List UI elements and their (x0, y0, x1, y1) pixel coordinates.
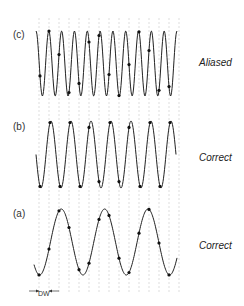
sample-point (127, 271, 130, 274)
sample-point (117, 180, 120, 183)
sample-point (108, 121, 111, 124)
sample-point (87, 126, 90, 129)
sample-point (47, 247, 50, 250)
sample-point (37, 273, 40, 276)
sample-point (168, 121, 171, 124)
sample-point (67, 226, 70, 229)
status-label-correct-a: Correct (199, 240, 232, 251)
sample-point (138, 185, 141, 188)
sample-point (67, 91, 70, 94)
sample-point (38, 185, 41, 188)
sample-point (148, 121, 151, 124)
sample-point (167, 273, 170, 276)
sample-point (57, 53, 60, 56)
panel-label-a: (a) (13, 208, 25, 219)
sample-point (87, 40, 90, 43)
sample-point (147, 208, 150, 211)
sample-point (77, 268, 80, 271)
waveform-b (36, 121, 176, 188)
sample-point (137, 30, 140, 33)
sample-point (78, 185, 81, 188)
sample-point (117, 257, 120, 260)
sample-point (167, 85, 170, 88)
sample-point (137, 232, 140, 235)
sample-point (157, 241, 160, 244)
status-label-aliased: Aliased (199, 57, 232, 68)
sample-point (127, 63, 130, 66)
sample-point (87, 262, 90, 265)
sample-point (77, 82, 80, 85)
sample-point (57, 209, 60, 212)
grid-lines (39, 18, 179, 292)
dwell-width-label: DW (38, 290, 50, 297)
sample-point (107, 214, 110, 217)
sample-point (97, 34, 100, 37)
panel-label-b: (b) (13, 121, 25, 132)
waveform-a (34, 209, 177, 275)
sample-point (127, 126, 130, 129)
sample-point (97, 180, 100, 183)
sample-point (47, 30, 50, 33)
sample-point (48, 121, 51, 124)
sample-point (157, 89, 160, 92)
sample-point (58, 185, 61, 188)
sample-point (107, 73, 110, 76)
sample-point (158, 185, 161, 188)
sample-point (117, 94, 120, 97)
sample-point (68, 121, 71, 124)
sample-point (97, 218, 100, 221)
sample-point (38, 74, 41, 77)
panel-label-c: (c) (13, 29, 25, 40)
waveform-c (36, 31, 177, 96)
status-label-correct-b: Correct (199, 152, 232, 163)
sample-point (147, 49, 150, 52)
